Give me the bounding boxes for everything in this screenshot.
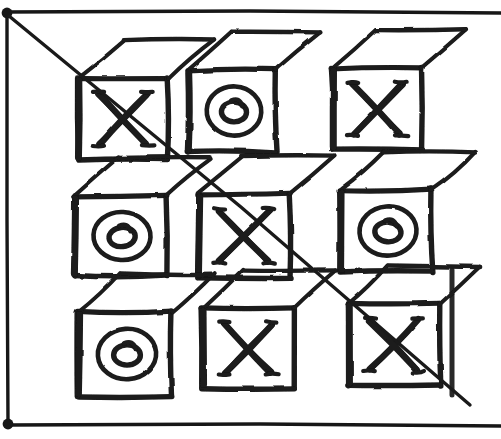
tic-tac-toe-sketch [0,0,501,439]
cube-front-top-edge [198,193,290,195]
cube-front-right-edge [440,303,441,386]
cube-front-right-edge [431,189,433,273]
cube-top-back-edge [376,29,465,30]
cube-front-top-edge [201,308,294,309]
cube-top-back-edge [232,32,320,33]
x-serif-tr [266,321,276,322]
corner-dot-bottom-left [3,419,14,430]
cube-left-shadow-edge [203,311,204,384]
x-serif-tl [219,321,229,322]
top-border-line [4,11,501,13]
cube-top-back-edge [383,151,475,152]
cube-front-bottom-edge [202,389,295,390]
x-serif-br [395,135,408,136]
cube-left-shadow-edge [78,81,79,157]
x-serif-bl [93,146,104,147]
x-serif-br [263,263,274,264]
cube-left-shadow-edge [188,73,189,150]
x-serif-bl [363,371,375,372]
x-serif-tr [263,208,275,209]
cube-front-top-edge [77,311,171,313]
cube-front-top-edge [331,68,422,69]
cube-top-back-edge [241,155,333,156]
x-serif-br [266,374,279,375]
cube-left-shadow-edge [78,315,79,394]
cube-front-top-edge [188,69,276,71]
x-serif-bl [213,262,225,263]
x-serif-tl [214,208,225,209]
bottom-border-line [8,424,501,426]
x-serif-tr [395,82,407,83]
x-serif-br [413,371,424,373]
cube-front-top-edge [348,303,439,304]
cube-front-right-edge [275,70,277,152]
cube-top-back-edge [389,266,480,267]
cube-left-shadow-edge [74,199,75,274]
cube-top-back-edge [119,157,210,158]
cube-front-right-edge [166,197,167,276]
cube-top-back-edge [121,274,214,275]
cube-front-bottom-edge [79,397,172,398]
cube-front-bottom-edge [187,151,275,153]
cube-front-right-edge [422,68,423,149]
cube-front-top-edge [75,195,167,197]
cube-left-shadow-edge [198,198,199,275]
x-serif-bl [347,135,358,136]
cube-top-back-edge [124,39,214,40]
cube-front-bottom-edge [348,385,440,386]
left-border-line [7,13,8,424]
cube-front-right-edge [289,195,290,278]
cube-front-right-edge [170,311,171,395]
cube-front-top-edge [339,189,432,191]
x-serif-tl [347,82,358,83]
